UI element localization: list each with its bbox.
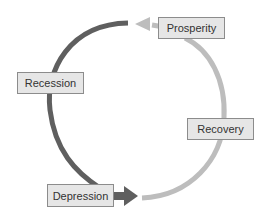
stage-recovery: Recovery xyxy=(187,118,254,140)
stage-depression: Depression xyxy=(47,184,114,207)
stage-recession: Recession xyxy=(17,72,84,94)
stage-label: Recovery xyxy=(197,123,243,135)
stage-label: Prosperity xyxy=(167,22,217,34)
cycle-arrows xyxy=(0,0,267,219)
stage-prosperity: Prosperity xyxy=(158,17,225,39)
stage-label: Depression xyxy=(53,190,109,202)
stage-label: Recession xyxy=(25,77,76,89)
downturn-arrow xyxy=(49,23,128,188)
arrowhead-left-icon xyxy=(135,17,150,31)
